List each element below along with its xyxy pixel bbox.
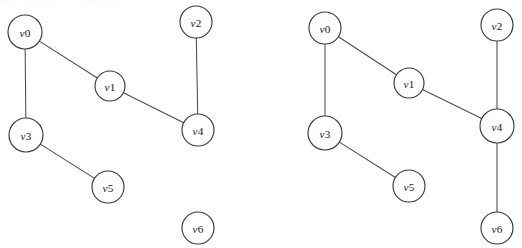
graph-node-v1[interactable]: v1 [394, 68, 424, 98]
node-label-v3: v3 [21, 130, 32, 142]
node-label-v6: v6 [193, 223, 204, 235]
graph-node-v2[interactable]: v2 [481, 9, 513, 41]
node-label-v6: v6 [492, 223, 503, 235]
graph-diagram-canvas: v0v1v2v3v4v5v6v0v1v2v3v4v5v6 [0, 0, 522, 248]
left-graph-nodes: v0v1v2v3v4v5v6 [8, 6, 214, 244]
graph-node-v0[interactable]: v0 [309, 12, 341, 44]
graph-node-v3[interactable]: v3 [308, 116, 342, 150]
graph-node-v0[interactable]: v0 [8, 15, 42, 49]
node-label-index: 5 [108, 182, 114, 194]
graph-node-v6[interactable]: v6 [481, 212, 513, 244]
graph-node-v5[interactable]: v5 [393, 170, 425, 202]
node-label-v2: v2 [492, 20, 503, 32]
graph-edge-v2-v4 [196, 38, 197, 114]
node-label-index: 1 [409, 78, 415, 90]
graph-edge-v1-v4 [123, 93, 183, 123]
node-label-v1: v1 [404, 78, 415, 90]
node-label-v1: v1 [105, 81, 116, 93]
graph-node-v3[interactable]: v3 [9, 118, 43, 152]
node-label-v0: v0 [20, 27, 31, 39]
graph-node-v6[interactable]: v6 [182, 212, 214, 244]
node-label-v0: v0 [320, 23, 331, 35]
graph-node-v4[interactable]: v4 [182, 114, 214, 146]
node-label-index: 0 [325, 23, 331, 35]
graph-node-v1[interactable]: v1 [95, 71, 125, 101]
node-label-v4: v4 [492, 121, 503, 133]
node-label-v5: v5 [103, 182, 114, 194]
node-label-index: 4 [198, 125, 204, 137]
right-graph-nodes: v0v1v2v3v4v5v6 [308, 9, 514, 244]
node-label-index: 2 [497, 20, 503, 32]
node-label-index: 6 [497, 223, 503, 235]
graph-node-v2[interactable]: v2 [180, 6, 212, 38]
node-label-index: 6 [198, 223, 204, 235]
graph-node-v5[interactable]: v5 [92, 171, 124, 203]
node-label-index: 3 [325, 128, 331, 140]
graph-edge-v0-v1 [338, 37, 396, 75]
node-label-v2: v2 [191, 17, 202, 29]
node-label-index: 0 [25, 27, 31, 39]
node-label-index: 5 [409, 181, 415, 193]
node-label-v3: v3 [320, 128, 331, 140]
node-label-index: 3 [26, 130, 32, 142]
graph-edge-v3-v5 [40, 144, 94, 178]
graph-edge-v3-v5 [339, 142, 395, 177]
node-label-index: 2 [196, 17, 202, 29]
graph-edge-v1-v4 [422, 90, 481, 119]
node-label-v5: v5 [404, 181, 415, 193]
graph-edge-v0-v3 [25, 49, 26, 118]
node-label-v4: v4 [193, 125, 204, 137]
node-label-index: 4 [497, 121, 503, 133]
figure-root: v0v1v2v3v4v5v6v0v1v2v3v4v5v6 [0, 0, 522, 248]
left-graph-edges [25, 38, 198, 178]
graph-edge-v0-v1 [39, 41, 97, 78]
node-label-index: 1 [110, 81, 116, 93]
graph-node-v4[interactable]: v4 [480, 109, 514, 143]
nodes-layer: v0v1v2v3v4v5v6v0v1v2v3v4v5v6 [8, 6, 514, 244]
